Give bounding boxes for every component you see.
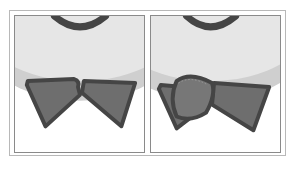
figure-frame [9, 10, 286, 156]
bowtie-illustration-after [151, 16, 280, 152]
bowtie-right-wing [82, 81, 135, 126]
panel-before [14, 15, 145, 153]
panel-after [150, 15, 281, 153]
bowtie-left-wing [27, 79, 80, 126]
bowtie-right-wing [212, 83, 269, 130]
bowtie-illustration-before [15, 16, 144, 152]
